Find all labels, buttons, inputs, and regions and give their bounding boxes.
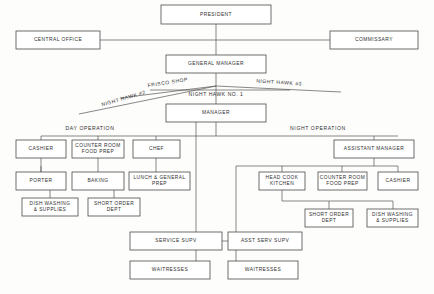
org-node-label: PRESIDENT bbox=[200, 12, 232, 17]
org-node-day_dish_washing[interactable]: DISH WASHING& SUPPLIES bbox=[22, 198, 78, 216]
org-node-day_lunch_prep[interactable]: LUNCH & GENERALPREP bbox=[129, 172, 190, 190]
org-node-day_waitresses[interactable]: WAITRESSES bbox=[130, 261, 210, 279]
org-node-night_waitresses[interactable]: WAITRESSES bbox=[228, 261, 298, 279]
org-node-label: CENTRAL OFFICE bbox=[34, 37, 83, 42]
org-node-commissary[interactable]: COMMISSARY bbox=[330, 31, 418, 49]
org-node-service_supv[interactable]: SERVICE SUPV bbox=[130, 232, 222, 250]
org-node-label: HEAD COOKKITCHEN bbox=[266, 176, 299, 186]
org-node-night_dish_washing[interactable]: DISH WASHING& SUPPLIES bbox=[367, 209, 418, 227]
org-node-label: COMMISSARY bbox=[355, 37, 393, 42]
org-node-label: PORTER bbox=[30, 178, 53, 183]
org-node-day_cashier[interactable]: CASHIER bbox=[16, 140, 66, 158]
org-chart-canvas: PRESIDENTCENTRAL OFFICECOMMISSARYGENERAL… bbox=[0, 0, 434, 294]
org-node-day_porter[interactable]: PORTER bbox=[16, 172, 66, 190]
org-node-label: GENERAL MANAGER bbox=[188, 61, 244, 66]
branch-label-night_hawk_1: NIGHT HAWK NO. 1 bbox=[189, 91, 244, 97]
org-node-day_short_order[interactable]: SHORT ORDERDEPT bbox=[88, 198, 140, 216]
branch-label-night_hawk_2: NIGHT HAWK #2 bbox=[101, 89, 147, 107]
org-node-label: CHEF bbox=[149, 146, 164, 151]
org-node-label: WAITRESSES bbox=[152, 267, 189, 272]
branch-label-layer: FRISCO SHOPNIGHT HAWK #2NIGHT HAWK #3NIG… bbox=[101, 76, 303, 107]
section-label-day_operation: DAY OPERATION bbox=[66, 125, 115, 131]
org-node-day_chef[interactable]: CHEF bbox=[133, 140, 180, 158]
node-layer: PRESIDENTCENTRAL OFFICECOMMISSARYGENERAL… bbox=[16, 5, 418, 279]
org-node-label: WAITRESSES bbox=[245, 267, 282, 272]
org-node-general_manager[interactable]: GENERAL MANAGER bbox=[166, 55, 266, 73]
branch-label-night_hawk_3: NIGHT HAWK #3 bbox=[256, 77, 302, 86]
org-node-central_office[interactable]: CENTRAL OFFICE bbox=[16, 31, 100, 49]
org-node-label: ASSISTANT MANAGER bbox=[344, 146, 404, 151]
org-node-label: DISH WASHING& SUPPLIES bbox=[30, 202, 71, 212]
org-node-label: DISH WASHING& SUPPLIES bbox=[372, 213, 413, 223]
org-node-label: CASHIER bbox=[29, 146, 54, 151]
org-node-label: BAKING bbox=[87, 178, 108, 183]
org-node-day_counter_room[interactable]: COUNTER ROOMFOOD PREP bbox=[72, 140, 124, 158]
org-node-night_short_order[interactable]: SHORT ORDERDEPT bbox=[305, 209, 353, 227]
org-node-night_counter_room[interactable]: COUNTER ROOMFOOD PREP bbox=[318, 172, 367, 190]
org-node-manager[interactable]: MANAGER bbox=[166, 104, 266, 122]
org-node-label: SERVICE SUPV bbox=[155, 238, 197, 243]
org-node-president[interactable]: PRESIDENT bbox=[161, 5, 271, 24]
org-node-asst_serv_supv[interactable]: ASST SERV SUPV bbox=[228, 232, 302, 250]
section-label-night_operation: NIGHT OPERATION bbox=[290, 125, 346, 131]
org-chart: PRESIDENTCENTRAL OFFICECOMMISSARYGENERAL… bbox=[0, 0, 434, 294]
org-node-label: ASST SERV SUPV bbox=[241, 238, 290, 243]
org-node-night_head_cook[interactable]: HEAD COOKKITCHEN bbox=[259, 172, 305, 190]
org-node-label: CASHIER bbox=[386, 178, 411, 183]
org-node-assistant_manager[interactable]: ASSISTANT MANAGER bbox=[334, 140, 414, 158]
branch-label-frisco_shop: FRISCO SHOP bbox=[147, 76, 188, 88]
org-node-label: COUNTER ROOMFOOD PREP bbox=[75, 144, 120, 154]
org-node-night_cashier[interactable]: CASHIER bbox=[378, 172, 418, 190]
org-node-day_baking[interactable]: BAKING bbox=[72, 172, 124, 190]
org-node-label: MANAGER bbox=[202, 110, 230, 115]
org-node-label: COUNTER ROOMFOOD PREP bbox=[320, 176, 365, 186]
section-label-layer: DAY OPERATIONNIGHT OPERATION bbox=[66, 125, 346, 131]
